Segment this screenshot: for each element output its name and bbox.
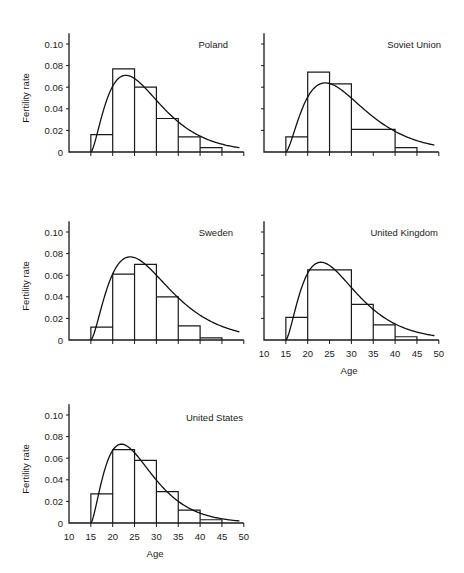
panel-sweden: Sweden 00.020.040.060.080.10Fertility ra…	[20, 221, 244, 345]
y-tick-label: 0.08	[45, 431, 64, 442]
panel-title: United Kingdom	[370, 227, 438, 238]
x-tick-label: 20	[302, 348, 313, 359]
y-tick-label: 0.04	[45, 474, 64, 485]
x-tick-label: 10	[64, 531, 75, 542]
x-tick-label: 50	[239, 531, 250, 542]
y-axis-label: Fertility rate	[20, 73, 31, 123]
panel-title: Sweden	[199, 227, 233, 238]
y-tick-label: 0.02	[45, 496, 64, 507]
y-tick-label: 0	[58, 147, 63, 158]
x-tick-label: 10	[259, 348, 270, 359]
panel-title: United States	[186, 412, 243, 423]
x-tick-label: 45	[412, 348, 423, 359]
histogram-bars	[286, 270, 417, 340]
x-tick-label: 30	[151, 531, 162, 542]
x-tick-label: 50	[434, 348, 445, 359]
panel-united-kingdom: United Kingdom Age 101520253035404550	[259, 221, 444, 376]
y-tick-label: 0.06	[45, 453, 64, 464]
histogram-bars	[91, 450, 222, 523]
x-axis-label: Age	[147, 548, 164, 559]
histogram-bars	[286, 72, 417, 152]
y-tick-label: 0	[58, 335, 63, 346]
x-tick-label: 35	[368, 348, 379, 359]
x-tick-label: 15	[281, 348, 292, 359]
fertility-figure: Poland 00.020.040.060.080.10Fertility ra…	[0, 0, 464, 573]
histogram-bars	[91, 69, 222, 152]
y-tick-label: 0.04	[45, 291, 64, 302]
panel-title: Poland	[198, 39, 228, 50]
y-tick-label: 0.02	[45, 125, 64, 136]
panel-united-states: United States Age 00.020.040.060.080.10F…	[20, 404, 249, 559]
y-tick-label: 0.08	[45, 248, 64, 259]
y-axis-label: Fertility rate	[20, 261, 31, 311]
y-tick-label: 0.02	[45, 313, 64, 324]
y-tick-label: 0.10	[45, 227, 64, 238]
panel-title: Soviet Union	[387, 39, 441, 50]
x-tick-label: 25	[324, 348, 335, 359]
panel-poland: Poland 00.020.040.060.080.10Fertility ra…	[20, 33, 244, 157]
x-tick-label: 45	[217, 531, 228, 542]
x-tick-label: 25	[129, 531, 140, 542]
x-axis-label: Age	[341, 365, 358, 376]
x-tick-label: 35	[173, 531, 184, 542]
panel-soviet-union: Soviet Union	[261, 33, 441, 156]
y-tick-label: 0.10	[45, 39, 64, 50]
x-tick-label: 20	[107, 531, 118, 542]
x-tick-label: 40	[195, 531, 206, 542]
y-tick-label: 0.10	[45, 410, 64, 421]
y-tick-label: 0.06	[45, 270, 64, 281]
y-tick-label: 0	[58, 518, 63, 529]
x-tick-label: 30	[346, 348, 357, 359]
x-tick-label: 15	[86, 531, 97, 542]
y-tick-label: 0.08	[45, 60, 64, 71]
y-tick-label: 0.06	[45, 82, 64, 93]
y-axis-label: Fertility rate	[20, 444, 31, 494]
y-tick-label: 0.04	[45, 103, 64, 114]
x-tick-label: 40	[390, 348, 401, 359]
